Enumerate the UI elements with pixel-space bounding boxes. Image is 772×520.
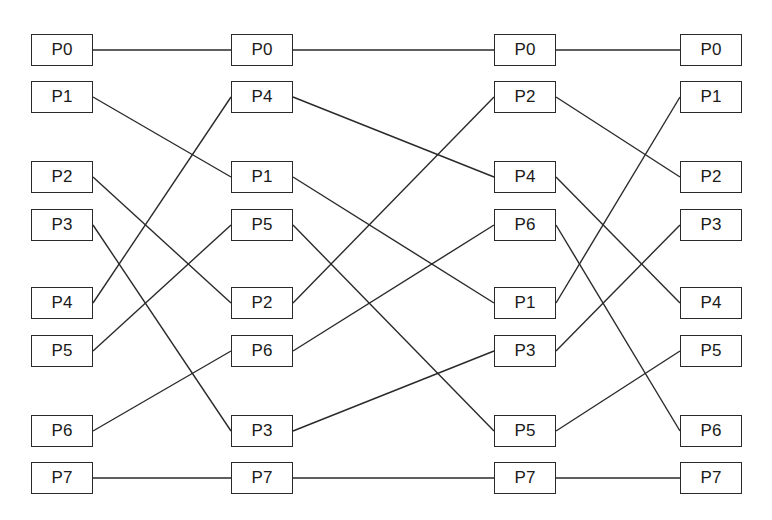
node-col1-p2: P2 (231, 287, 293, 319)
node-col1-p5: P5 (231, 209, 293, 241)
node-col0-p6: P6 (31, 415, 93, 447)
node-col2-p6: P6 (494, 209, 556, 241)
node-col0-p2: P2 (31, 161, 93, 193)
edge-p1-stage3 (556, 97, 680, 303)
edge-p6-stage3 (556, 225, 680, 431)
edge-p6-stage1 (93, 351, 231, 431)
node-col2-p3: P3 (494, 335, 556, 367)
edge-p4-stage2 (293, 97, 494, 177)
edge-p1-stage1 (93, 97, 231, 177)
node-col1-p7: P7 (231, 462, 293, 494)
edge-p2-stage2 (293, 97, 494, 303)
node-col1-p0: P0 (231, 34, 293, 66)
node-col0-p4: P4 (31, 287, 93, 319)
node-col1-p4: P4 (231, 81, 293, 113)
edge-p6-stage2 (293, 225, 494, 351)
node-col3-p6: P6 (680, 415, 742, 447)
node-col3-p0: P0 (680, 34, 742, 66)
node-col0-p3: P3 (31, 209, 93, 241)
edge-p3-stage3 (556, 225, 680, 351)
node-col0-p7: P7 (31, 462, 93, 494)
edge-p5-stage3 (556, 351, 680, 431)
node-col3-p4: P4 (680, 287, 742, 319)
edge-p5-stage2 (293, 225, 494, 431)
edge-p4-stage1 (93, 97, 231, 303)
node-col0-p1: P1 (31, 81, 93, 113)
node-col3-p3: P3 (680, 209, 742, 241)
node-col3-p2: P2 (680, 161, 742, 193)
node-col3-p1: P1 (680, 81, 742, 113)
edge-p3-stage1 (93, 225, 231, 431)
node-col0-p0: P0 (31, 34, 93, 66)
connection-lines (0, 0, 772, 520)
edge-p5-stage1 (93, 225, 231, 351)
node-col2-p0: P0 (494, 34, 556, 66)
node-col2-p1: P1 (494, 287, 556, 319)
node-col1-p6: P6 (231, 335, 293, 367)
node-col2-p2: P2 (494, 81, 556, 113)
permutation-network-diagram: P0P1P2P3P4P5P6P7P0P4P1P5P2P6P3P7P0P2P4P6… (0, 0, 772, 520)
edge-p2-stage3 (556, 97, 680, 177)
node-col2-p4: P4 (494, 161, 556, 193)
node-col1-p3: P3 (231, 415, 293, 447)
edge-p2-stage1 (93, 177, 231, 303)
node-col3-p7: P7 (680, 462, 742, 494)
node-col0-p5: P5 (31, 335, 93, 367)
node-col3-p5: P5 (680, 335, 742, 367)
edge-p1-stage2 (293, 177, 494, 303)
node-col2-p7: P7 (494, 462, 556, 494)
edge-p3-stage2 (293, 351, 494, 431)
node-col1-p1: P1 (231, 161, 293, 193)
edge-p4-stage3 (556, 177, 680, 303)
node-col2-p5: P5 (494, 415, 556, 447)
